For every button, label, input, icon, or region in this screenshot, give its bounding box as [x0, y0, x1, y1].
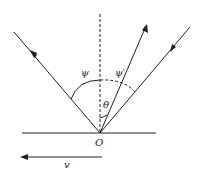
label-psi: ψ: [81, 67, 89, 78]
psi-arc: [71, 80, 100, 99]
theta-arc: [100, 115, 107, 118]
label-origin: O: [95, 137, 103, 148]
reflected-ray-arrowhead: [142, 24, 148, 33]
label-psi-prime: ψ′: [115, 67, 126, 78]
incident-ray-right: [100, 27, 190, 133]
reflected-ray: [100, 26, 146, 133]
psi-prime-arc: [100, 80, 135, 92]
reflection-diagram: ψ ψ′ θ O v: [0, 0, 199, 174]
label-theta: θ: [103, 99, 109, 110]
label-velocity: v: [64, 159, 70, 170]
velocity-arrowhead: [20, 154, 28, 160]
